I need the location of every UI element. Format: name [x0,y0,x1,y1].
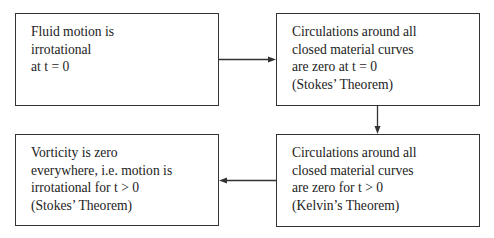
arrow-down-icon [375,106,381,134]
arrow-right-icon [219,57,276,63]
edges-layer [0,0,494,238]
arrow-left-icon [219,178,276,184]
